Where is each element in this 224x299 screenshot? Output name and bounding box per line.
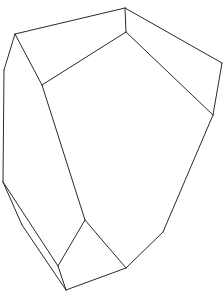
edge-HK [3,182,58,266]
edge-EF [42,32,126,85]
edge-ED [126,32,213,115]
polyhedron-diagram [0,0,224,299]
edge-BC [125,8,222,63]
edge-CD [213,63,222,115]
edge-GH [3,70,4,182]
edge-HI [3,182,22,225]
edge-LM [85,220,126,268]
edge-BE [125,8,126,32]
edge-FL [42,85,85,220]
edge-MN [126,232,163,268]
edge-AB [15,8,125,34]
edge-KJ [58,266,66,290]
edge-ND [163,115,213,232]
edge-IJ [22,225,66,290]
edge-JM [66,268,126,290]
edge-AF [15,34,42,85]
edge-AG [4,34,15,70]
edge-KL [58,220,85,266]
